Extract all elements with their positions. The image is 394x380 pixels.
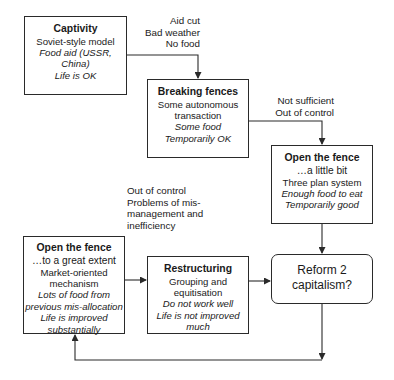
arrow-loop-back — [75, 335, 322, 360]
box-line: Reform 2 — [297, 263, 346, 278]
box-title: Captivity — [54, 23, 98, 36]
box-subtitle: …to a great extent — [32, 255, 116, 267]
box-title: Open the fence — [36, 242, 111, 255]
box-italic-line: Enough food to eat — [281, 188, 362, 199]
edge-label-line: Out of control — [250, 107, 334, 119]
box-reform-capitalism: Reform 2 capitalism? — [271, 254, 373, 304]
edge-label-line: inefficiency — [127, 220, 237, 232]
edge-label-breaking-to-open-little: Not sufficient Out of control — [250, 95, 334, 118]
box-line: mechanism — [49, 278, 98, 289]
box-italic-line: Life is improved — [40, 312, 107, 323]
box-title: Breaking fences — [158, 86, 238, 99]
box-italic-line: Temporarily good — [285, 199, 359, 210]
arrow-breaking-to-open-little — [249, 121, 322, 144]
box-italic-line: Do not work well — [163, 298, 233, 309]
box-title: Restructuring — [164, 263, 232, 276]
box-line: transaction — [175, 110, 222, 121]
box-line: Three plan system — [283, 177, 362, 188]
edge-label-line: Bad weather — [140, 27, 200, 39]
box-line: capitalism? — [292, 278, 352, 293]
box-title: Open the fence — [284, 152, 359, 165]
box-line: Market-oriented — [40, 267, 107, 278]
box-open-fence-little: Open the fence …a little bit Three plan … — [271, 145, 373, 224]
edge-label-line: No food — [140, 38, 200, 50]
box-italic-line: China) — [61, 58, 89, 69]
box-italic-line: Life is OK — [55, 70, 97, 81]
box-captivity: Captivity Soviet-style model Food aid (U… — [24, 16, 127, 95]
box-subtitle: …a little bit — [297, 165, 347, 177]
box-italic-line: substantially — [48, 324, 101, 335]
box-restructuring: Restructuring Grouping and equitisation … — [147, 256, 249, 334]
box-italic-line: Lots of food from — [38, 289, 110, 300]
box-open-fence-great: Open the fence …to a great extent Market… — [23, 236, 125, 334]
box-italic-line: Food aid (USSR, — [39, 47, 112, 58]
edge-label-line: Not sufficient — [250, 95, 334, 107]
box-italic-line: Temporarily OK — [165, 133, 231, 144]
edge-label-line: Aid cut — [140, 15, 200, 27]
box-line: Some autonomous — [158, 99, 239, 110]
box-italic-line: Some food — [175, 121, 221, 132]
box-line: Soviet-style model — [36, 36, 114, 47]
edge-label-captivity-to-breaking: Aid cut Bad weather No food — [140, 15, 200, 50]
box-italic-line: Life is not improved — [156, 310, 239, 321]
edge-label-line: management and — [127, 208, 237, 220]
box-breaking-fences: Breaking fences Some autonomous transact… — [147, 79, 249, 158]
box-italic-line: previous mis-allocation — [25, 301, 123, 312]
edge-label-great-extent-note: Out of control Problems of mis- manageme… — [127, 185, 237, 232]
box-line: Grouping and — [169, 276, 227, 287]
arrow-captivity-to-breaking — [127, 55, 198, 78]
box-line: equitisation — [174, 287, 223, 298]
edge-label-line: Problems of mis- — [127, 197, 237, 209]
box-italic-line: much — [186, 321, 209, 332]
edge-label-line: Out of control — [127, 185, 237, 197]
